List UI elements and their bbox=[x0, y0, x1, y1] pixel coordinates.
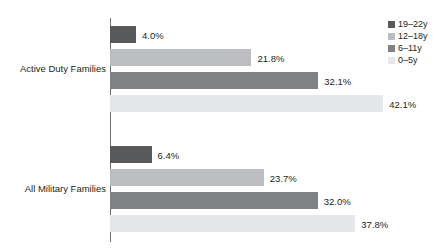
legend-swatch-icon bbox=[388, 57, 395, 64]
bar-row: 32.0% bbox=[110, 192, 439, 209]
bar-611y-2 bbox=[110, 192, 318, 209]
bar-value-label: 37.8% bbox=[355, 218, 388, 229]
legend-item-1[interactable]: 19–22y bbox=[388, 18, 439, 30]
bar-1218y-1 bbox=[110, 49, 251, 66]
bar-value-label: 42.1% bbox=[383, 98, 416, 109]
category-label-2: All Military Families bbox=[6, 183, 106, 194]
legend-swatch-icon bbox=[388, 21, 395, 28]
bar-1922y-1 bbox=[110, 26, 136, 43]
bar-value-label: 21.8% bbox=[251, 52, 284, 63]
legend-swatch-icon bbox=[388, 45, 395, 52]
bar-611y-1 bbox=[110, 72, 318, 89]
bar-05y-2 bbox=[110, 215, 355, 232]
category-label-1: Active Duty Families bbox=[6, 63, 106, 74]
legend-swatch-icon bbox=[388, 33, 395, 40]
bar-value-label: 23.7% bbox=[264, 172, 297, 183]
bar-value-label: 32.0% bbox=[318, 195, 351, 206]
bar-row: 37.8% bbox=[110, 215, 439, 232]
legend-label: 6–11y bbox=[398, 42, 422, 54]
bar-row: 32.1% bbox=[110, 72, 439, 89]
legend-item-2[interactable]: 12–18y bbox=[388, 30, 439, 42]
legend-item-3[interactable]: 6–11y bbox=[388, 42, 439, 54]
bar-05y-1 bbox=[110, 95, 383, 112]
bar-value-label: 4.0% bbox=[136, 29, 164, 40]
bar-chart: Active Duty FamiliesAll Military Familie… bbox=[0, 0, 439, 249]
bar-value-label: 32.1% bbox=[318, 75, 351, 86]
bar-1218y-2 bbox=[110, 169, 264, 186]
bar-value-label: 6.4% bbox=[152, 149, 180, 160]
legend-item-4[interactable]: 0–5y bbox=[388, 54, 439, 66]
bar-row: 42.1% bbox=[110, 95, 439, 112]
category-axis: Active Duty FamiliesAll Military Familie… bbox=[0, 0, 106, 249]
legend: 19–22y12–18y6–11y0–5y bbox=[388, 18, 439, 66]
legend-label: 0–5y bbox=[398, 54, 418, 66]
legend-label: 19–22y bbox=[398, 18, 428, 30]
bar-row: 6.4% bbox=[110, 146, 439, 163]
bar-row: 23.7% bbox=[110, 169, 439, 186]
bar-1922y-2 bbox=[110, 146, 152, 163]
legend-label: 12–18y bbox=[398, 30, 428, 42]
